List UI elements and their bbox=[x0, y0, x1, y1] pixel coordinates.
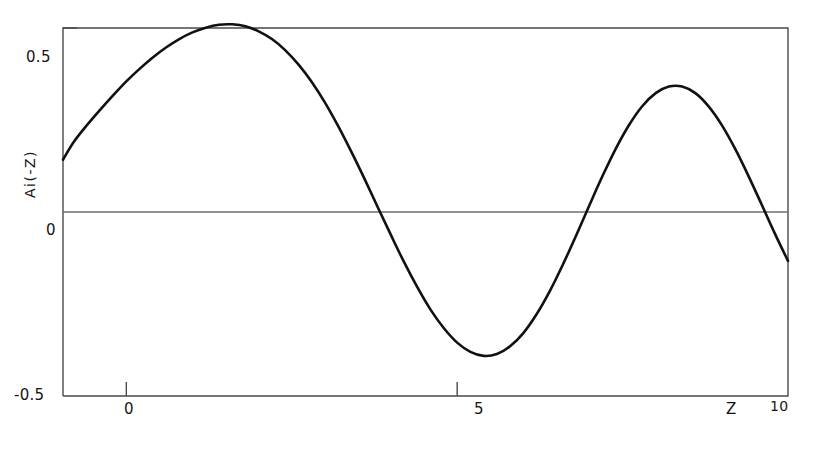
x-tick-label-5: 5 bbox=[474, 400, 484, 418]
x-tick-label-10: 10 bbox=[770, 398, 788, 414]
y-tick-label-minus-0.5: -0.5 bbox=[14, 386, 44, 404]
y-tick-label-0: 0 bbox=[46, 221, 56, 239]
chart-figure: Ai(-Z) 0.5 0 -0.5 0 5 10 Z bbox=[0, 0, 820, 449]
y-tick-label-0.5: 0.5 bbox=[26, 48, 51, 66]
y-axis-title: Ai(-Z) bbox=[22, 150, 38, 198]
x-tick-label-0: 0 bbox=[124, 400, 134, 418]
figure-background bbox=[0, 0, 820, 449]
x-axis-title: Z bbox=[726, 400, 737, 418]
airy-function-plot bbox=[0, 0, 820, 449]
